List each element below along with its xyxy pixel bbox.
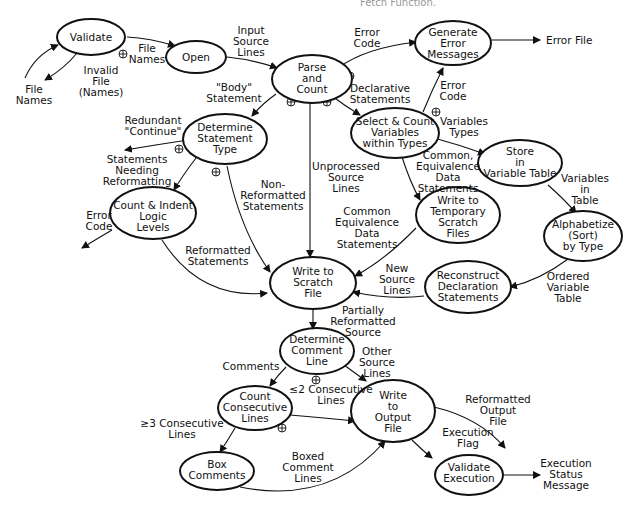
- svg-text:Statements: Statements: [337, 238, 398, 250]
- data-flow-diagram: Fetch Function.: [0, 0, 640, 514]
- label-error-code-top: ErrorCode: [354, 26, 381, 49]
- label-common-equivalence-2: CommonEquivalenceDataStatements: [335, 205, 399, 250]
- svg-text:Flag: Flag: [457, 437, 479, 449]
- label-error-file: Error File: [546, 34, 593, 46]
- label-body-statement: "Body"Statement: [206, 81, 261, 104]
- svg-text:Levels: Levels: [136, 221, 169, 233]
- svg-text:Lines: Lines: [168, 428, 195, 440]
- label-file-names-in: FileNames: [16, 83, 52, 106]
- node-count-indent-logic-levels: Count & Indent Logic Levels: [110, 187, 196, 239]
- svg-text:(Names): (Names): [79, 86, 124, 98]
- label-new-source: NewSourceLines: [379, 262, 415, 296]
- edge-countconsec-to-writeoutput: [290, 415, 355, 421]
- edge-detstmt-to-countindent: [174, 158, 196, 190]
- svg-text:Types: Types: [448, 126, 479, 138]
- label-ordered-table: OrderedVariableTable: [547, 270, 590, 304]
- label-redundant-continue: Redundant"Continue": [124, 114, 181, 137]
- svg-text:Statements: Statements: [418, 182, 479, 194]
- edge-countindent-errorcode: [82, 230, 112, 248]
- svg-text:Lines: Lines: [332, 182, 359, 194]
- label-needing-reformatting: StatementsNeedingReformatting: [103, 153, 172, 187]
- node-determine-statement-type: Determine Statement Type: [183, 114, 267, 164]
- edge-writeoutput-to-validateexec: [412, 440, 432, 458]
- svg-text:Comments: Comments: [223, 360, 280, 372]
- node-count-consecutive-lines: Count Consecutive Lines: [218, 386, 292, 430]
- svg-text:File: File: [304, 287, 322, 299]
- label-non-reformatted: Non-ReformattedStatements: [240, 178, 306, 212]
- svg-text:Names: Names: [129, 53, 165, 65]
- node-box-comments: Box Comments: [180, 452, 254, 490]
- figure-caption: Fetch Function.: [360, 0, 436, 8]
- label-comments: Comments: [223, 360, 280, 372]
- label-error-code-mid: ErrorCode: [440, 79, 467, 102]
- label-other-source: OtherSourceLines: [359, 345, 395, 379]
- label-error-code-left: ErrorCode: [86, 209, 113, 232]
- label-invalid-file: InvalidFile(Names): [79, 64, 124, 98]
- svg-text:Open: Open: [182, 51, 210, 63]
- svg-text:Statement: Statement: [206, 92, 261, 104]
- svg-text:Names: Names: [16, 94, 52, 106]
- svg-text:Statements: Statements: [188, 255, 249, 267]
- svg-text:Lines: Lines: [237, 46, 264, 58]
- svg-text:Statements: Statements: [350, 93, 411, 105]
- edge-validate-to-invalid: [45, 53, 77, 80]
- node-determine-comment-line: Determine Comment Line: [280, 328, 354, 374]
- svg-text:Files: Files: [446, 227, 469, 239]
- label-common-equivalence-1: Common,EquivalenceDataStatements: [416, 149, 480, 194]
- label-reformatted-output: ReformattedOutputFile: [465, 393, 531, 427]
- svg-text:Lines: Lines: [383, 284, 410, 296]
- node-generate-error-messages: Generate Error Messages: [415, 21, 491, 65]
- svg-text:Lines: Lines: [294, 472, 321, 484]
- node-validate: Validate: [57, 19, 125, 55]
- label-variables-in-table: VariablesinTable: [561, 172, 609, 206]
- label-execution-status: ExecutionStatusMessage: [540, 457, 592, 491]
- svg-text:"Continue": "Continue": [125, 125, 182, 137]
- svg-text:Lines: Lines: [363, 367, 390, 379]
- svg-text:Comments: Comments: [189, 469, 246, 481]
- label-input-source: InputSourceLines: [233, 24, 269, 58]
- svg-text:Source: Source: [345, 326, 381, 338]
- svg-text:Table: Table: [570, 194, 598, 206]
- svg-text:Message: Message: [543, 479, 589, 491]
- node-write-to-scratch-file: Write to Scratch File: [270, 257, 356, 309]
- node-validate-execution: Validate Execution: [435, 455, 503, 495]
- node-write-temporary-scratch: Write to Temporary Scratch Files: [416, 187, 500, 243]
- edge-open-to-parse: [227, 57, 277, 68]
- node-reconstruct-declaration: Reconstruct Declaration Statements: [425, 261, 511, 313]
- label-ge3-consecutive: ≥3 ConsecutiveLines: [140, 417, 223, 440]
- label-variables-types: VariablesTypes: [440, 115, 488, 138]
- svg-text:Statements: Statements: [438, 291, 499, 303]
- svg-text:Lines: Lines: [241, 412, 268, 424]
- edge-filenames-to-validate: [25, 45, 58, 78]
- label-unprocessed-source: UnprocessedSourceLines: [312, 160, 380, 194]
- svg-text:Code: Code: [440, 90, 467, 102]
- svg-text:Lines: Lines: [317, 394, 344, 406]
- svg-text:within Types: within Types: [363, 137, 428, 149]
- svg-text:Reformatting: Reformatting: [103, 175, 172, 187]
- svg-text:Code: Code: [86, 220, 113, 232]
- svg-text:File: File: [384, 422, 402, 434]
- svg-text:Line: Line: [306, 355, 328, 367]
- svg-text:Validate: Validate: [70, 31, 112, 43]
- svg-text:Variable Table: Variable Table: [483, 167, 556, 179]
- node-alphabetize: Alphabetize (Sort) by Type: [544, 211, 622, 261]
- svg-text:Count: Count: [296, 83, 327, 95]
- svg-text:Statements: Statements: [243, 200, 304, 212]
- node-open: Open: [166, 41, 226, 73]
- svg-text:Type: Type: [212, 143, 237, 155]
- label-reformatted-statements: ReformattedStatements: [185, 244, 251, 267]
- label-execution-flag: ExecutionFlag: [442, 426, 494, 449]
- svg-text:Messages: Messages: [427, 48, 479, 60]
- svg-text:Table: Table: [553, 292, 581, 304]
- svg-text:Execution: Execution: [443, 472, 495, 484]
- node-store-in-variable-table: Store in Variable Table: [478, 140, 562, 186]
- svg-text:by Type: by Type: [563, 240, 603, 252]
- label-boxed-comment: BoxedCommentLines: [282, 450, 333, 484]
- svg-text:Error File: Error File: [546, 34, 593, 46]
- node-parse-and-count: Parse and Count: [272, 55, 352, 103]
- svg-text:Code: Code: [354, 37, 381, 49]
- edge-countconsec-to-box: [220, 428, 235, 452]
- label-declarative: DeclarativeStatements: [350, 82, 411, 105]
- label-file-names: FileNames: [129, 42, 165, 65]
